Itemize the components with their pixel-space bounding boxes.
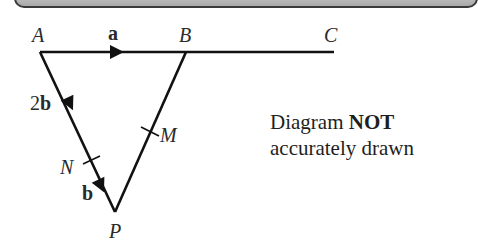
label-vector-a: a <box>108 22 118 44</box>
label-vector-2b: 2b <box>30 92 51 114</box>
arrow-ab-icon <box>110 45 124 59</box>
label-a: A <box>30 24 45 46</box>
label-vector-b: b <box>82 182 93 204</box>
label-p: P <box>108 220 121 242</box>
label-m: M <box>159 124 178 146</box>
note-line-1: Diagram NOT <box>270 110 394 134</box>
arrow-np-icon <box>92 177 111 196</box>
note-line-2: accurately drawn <box>270 136 414 160</box>
label-c: C <box>324 24 338 46</box>
label-n: N <box>59 156 75 178</box>
label-b: B <box>179 24 191 46</box>
